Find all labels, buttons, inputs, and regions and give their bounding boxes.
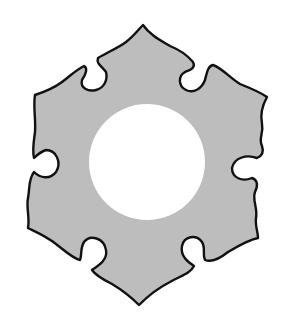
crest-figure: Hexagonal crest with scalloped notches bbox=[0, 0, 290, 322]
crest-shape-icon bbox=[0, 0, 290, 322]
center-hole bbox=[89, 104, 205, 220]
